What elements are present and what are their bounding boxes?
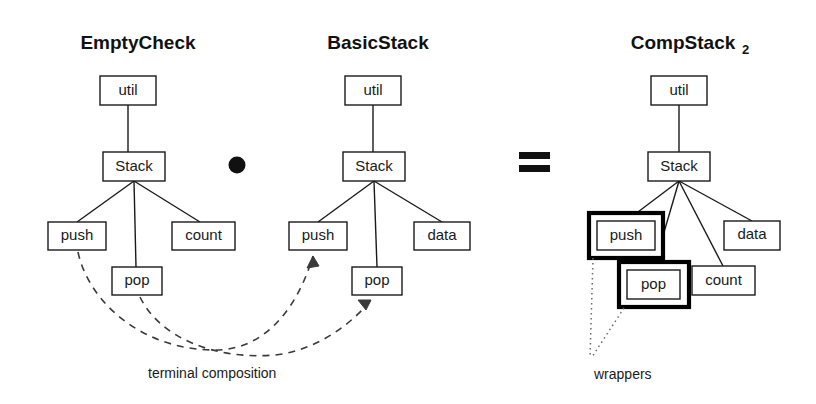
node-data[interactable]: data	[414, 222, 470, 250]
node-label-push: push	[61, 226, 94, 243]
composition-dot-icon	[229, 157, 246, 174]
node-label-count: count	[185, 226, 223, 243]
annotation-label-terminal-composition: terminal composition	[148, 365, 276, 381]
node-pop-wrapped[interactable]: pop	[619, 262, 689, 307]
node-label-util: util	[363, 81, 382, 98]
node-pop[interactable]: pop	[112, 267, 162, 295]
node-push-wrapped[interactable]: push	[589, 213, 663, 258]
node-label-stack: Stack	[660, 157, 698, 174]
node-label-util: util	[118, 81, 137, 98]
node-push[interactable]: push	[48, 222, 106, 250]
equals-bar-top	[519, 152, 550, 159]
node-util[interactable]: util	[651, 76, 707, 105]
composition-diagram: EmptyCheck util Stack push pop count	[0, 0, 816, 404]
node-util[interactable]: util	[345, 76, 401, 105]
node-data[interactable]: data	[724, 221, 780, 250]
node-label-stack: Stack	[115, 157, 153, 174]
node-label-pop: pop	[641, 275, 666, 292]
node-label-data: data	[737, 225, 767, 242]
node-label-data: data	[427, 226, 457, 243]
node-util[interactable]: util	[100, 76, 156, 105]
node-label-push: push	[302, 226, 335, 243]
node-label-pop: pop	[364, 271, 389, 288]
node-count[interactable]: count	[692, 266, 755, 295]
node-label-stack: Stack	[355, 157, 393, 174]
tree-title-basic-stack: BasicStack	[327, 32, 429, 53]
operator-composition-dot: •	[229, 157, 246, 174]
equals-bar-bottom	[519, 165, 550, 172]
node-stack[interactable]: Stack	[103, 152, 165, 181]
node-stack[interactable]: Stack	[343, 152, 405, 181]
annotation-label-wrappers: wrappers	[593, 366, 652, 382]
node-label-pop: pop	[124, 271, 149, 288]
node-label-push: push	[610, 226, 643, 243]
node-push[interactable]: push	[289, 222, 347, 250]
tree-title-empty-check: EmptyCheck	[80, 32, 196, 53]
node-pop[interactable]: pop	[352, 267, 402, 295]
tree-title-comp-stack-subscript: 2	[742, 42, 749, 57]
node-stack[interactable]: Stack	[648, 152, 710, 181]
tree-title-comp-stack: CompStack	[631, 32, 736, 53]
node-label-count: count	[705, 271, 743, 288]
node-label-util: util	[669, 81, 688, 98]
node-count[interactable]: count	[172, 222, 235, 250]
